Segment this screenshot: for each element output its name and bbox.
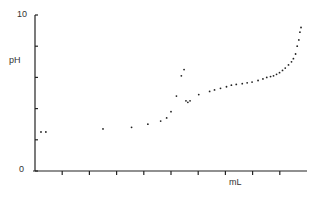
data-point — [235, 84, 237, 86]
data-point — [209, 91, 211, 93]
data-point — [226, 86, 228, 88]
data-point — [293, 58, 295, 60]
data-points — [40, 27, 302, 133]
data-point — [241, 83, 243, 85]
y-max-label: 10 — [17, 9, 27, 19]
data-point — [251, 81, 253, 83]
data-point — [300, 27, 302, 29]
data-point — [257, 80, 259, 82]
titration-chart — [0, 0, 320, 197]
data-point — [185, 100, 187, 102]
data-point — [276, 73, 278, 75]
data-point — [198, 94, 200, 96]
data-point — [40, 131, 42, 133]
data-point — [102, 128, 104, 130]
data-point — [189, 100, 191, 102]
data-point — [230, 84, 232, 86]
data-point — [284, 67, 286, 69]
data-point — [279, 72, 281, 74]
data-point — [214, 89, 216, 91]
data-point — [262, 78, 264, 80]
data-point — [176, 95, 178, 97]
axes — [33, 15, 307, 175]
data-point — [131, 126, 133, 128]
data-point — [170, 111, 172, 113]
data-point — [45, 131, 47, 133]
y-axis-label: pH — [9, 55, 21, 65]
data-point — [270, 76, 272, 78]
data-point — [180, 75, 182, 77]
data-point — [246, 82, 248, 84]
data-point — [288, 64, 290, 66]
data-point — [160, 120, 162, 122]
data-point — [147, 123, 149, 125]
data-point — [187, 101, 189, 103]
data-point — [299, 31, 301, 33]
data-point — [298, 39, 300, 41]
data-point — [295, 53, 297, 55]
y-min-label: 0 — [19, 164, 24, 174]
data-point — [273, 75, 275, 77]
data-point — [282, 69, 284, 71]
data-point — [266, 77, 268, 79]
x-axis-label: mL — [229, 177, 242, 187]
data-point — [296, 45, 298, 47]
data-point — [291, 61, 293, 63]
data-point — [166, 117, 168, 119]
data-point — [183, 69, 185, 71]
data-point — [220, 87, 222, 89]
